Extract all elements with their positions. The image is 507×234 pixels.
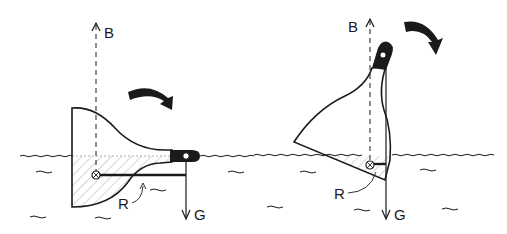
left-panel: B G R — [20, 23, 254, 223]
water-line-right-b — [392, 154, 494, 156]
buoyancy-diagram: B G R — [0, 0, 507, 234]
center-of-gravity-marker-right — [380, 52, 386, 58]
wave-marks-left — [30, 171, 244, 219]
label-g-right: G — [394, 206, 406, 223]
water-line-left — [20, 155, 72, 157]
label-g-left: G — [194, 206, 206, 223]
wave-marks-right — [267, 169, 458, 211]
center-of-gravity-marker-left — [183, 153, 189, 159]
diagram-canvas: B G R — [0, 0, 507, 234]
water-line-right-segment — [200, 155, 254, 157]
water-line-right-a — [254, 154, 362, 156]
label-r-right: R — [334, 185, 345, 202]
label-r-left: R — [118, 195, 129, 212]
rotation-arrow-right — [404, 21, 443, 55]
r-leader-left — [132, 186, 143, 203]
label-b-right: B — [348, 18, 358, 35]
submerged-area-left — [72, 108, 172, 207]
label-b-left: B — [104, 24, 114, 41]
right-panel: B G R — [254, 18, 494, 223]
rotation-arrow-left — [128, 88, 173, 110]
